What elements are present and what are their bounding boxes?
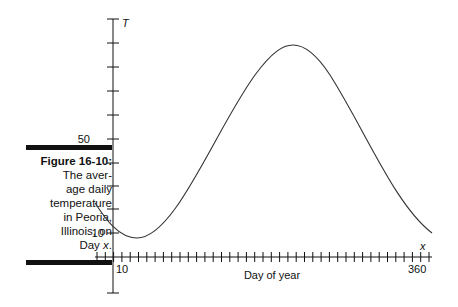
x-var-label: x xyxy=(419,240,426,252)
x-axis-label: Day of year xyxy=(244,269,301,281)
temperature-curve xyxy=(95,45,432,238)
chart: 50 10 10 360 Day of year T x xyxy=(0,0,458,307)
x-ticks xyxy=(97,252,429,262)
y-tick-label-50: 50 xyxy=(78,133,90,145)
x-tick-label-10: 10 xyxy=(116,263,128,275)
y-tick-label-10: 10 xyxy=(92,227,104,239)
y-axis-label: T xyxy=(122,17,130,29)
x-tick-label-360: 360 xyxy=(408,263,426,275)
